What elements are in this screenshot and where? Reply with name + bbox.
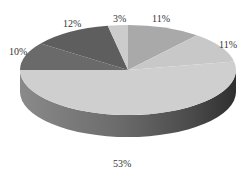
data-label-bottom: 53% <box>113 159 131 169</box>
data-label-upper-left: 12% <box>63 19 81 29</box>
data-label-top-right: 11% <box>152 14 170 24</box>
data-label-left: 10% <box>9 47 27 57</box>
data-label-top: 3% <box>113 14 126 24</box>
pie-chart-3d <box>0 0 251 182</box>
pie-top-face <box>20 25 236 115</box>
data-label-right: 11% <box>219 40 237 50</box>
